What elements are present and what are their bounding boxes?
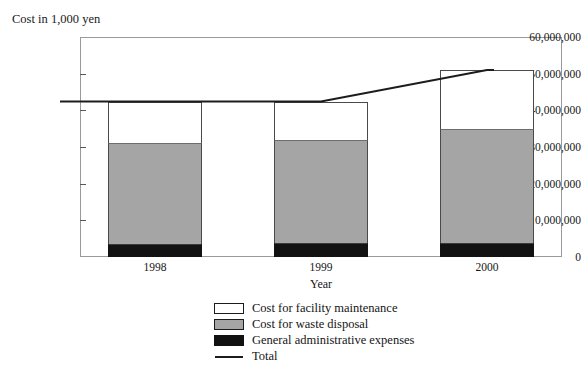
legend-item-label: General administrative expenses bbox=[252, 333, 414, 348]
x-axis-tick-label: 1998 bbox=[144, 261, 167, 273]
black-square-icon bbox=[214, 335, 244, 346]
legend-item: Cost for facility maintenance bbox=[214, 301, 414, 316]
bar-1999 bbox=[274, 37, 368, 257]
bar-segment-white bbox=[274, 102, 368, 141]
gray-square-icon bbox=[214, 319, 244, 330]
bar-segment-black bbox=[440, 243, 534, 257]
bar-segment-white bbox=[108, 102, 202, 144]
y-axis-tick-mark bbox=[80, 110, 86, 111]
y-axis-title: Cost in 1,000 yen bbox=[12, 12, 100, 27]
bar-1998 bbox=[108, 37, 202, 257]
legend-item: General administrative expenses bbox=[214, 333, 414, 348]
bar-segment-gray bbox=[108, 143, 202, 243]
legend-item-label: Cost for facility maintenance bbox=[252, 301, 397, 316]
y-axis-tick-mark bbox=[80, 220, 86, 221]
bar-segment-black bbox=[274, 243, 368, 257]
bar-2000 bbox=[440, 37, 534, 257]
bar-segment-white bbox=[440, 70, 534, 129]
x-axis-title: Year bbox=[310, 277, 332, 292]
bar-segment-gray bbox=[440, 129, 534, 243]
legend-item: Total bbox=[214, 349, 414, 364]
legend-item-label: Total bbox=[252, 349, 278, 364]
legend-item: Cost for waste disposal bbox=[214, 317, 414, 332]
y-axis-tick-mark bbox=[80, 147, 86, 148]
x-axis-tick-label: 2000 bbox=[476, 261, 499, 273]
y-axis-tick-mark bbox=[80, 184, 86, 185]
x-axis-tick-label: 1999 bbox=[310, 261, 333, 273]
chart-figure: Cost in 1,000 yen 60,000,00050,000,00040… bbox=[0, 0, 581, 378]
legend-item-label: Cost for waste disposal bbox=[252, 317, 368, 332]
cut-off-header-text bbox=[28, 0, 568, 6]
line-marker-icon bbox=[214, 351, 244, 362]
y-axis-tick-mark bbox=[80, 74, 86, 75]
legend: Cost for facility maintenance Cost for w… bbox=[214, 301, 414, 365]
bar-segment-black bbox=[108, 244, 202, 257]
white-square-icon bbox=[214, 303, 244, 314]
bar-segment-gray bbox=[274, 140, 368, 243]
